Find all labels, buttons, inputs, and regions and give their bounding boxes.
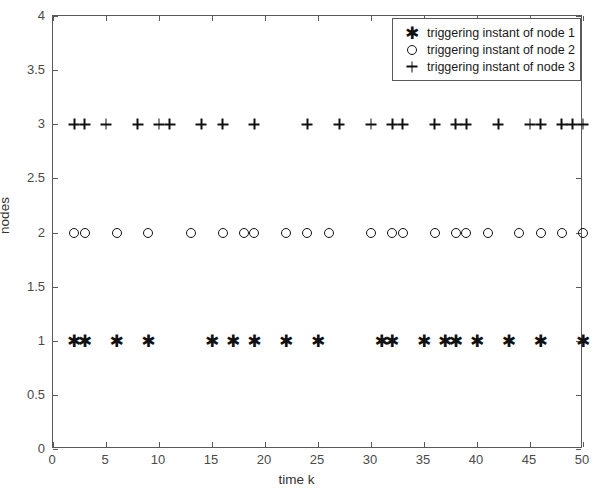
x-tick-4: [265, 16, 266, 21]
x-tick-label-8: 40: [469, 452, 483, 467]
data-point-s1-13: [398, 228, 408, 238]
data-point-s2-4: [154, 119, 165, 130]
y-tick-label-8: 4: [38, 8, 45, 23]
data-point-s1-16: [461, 228, 471, 238]
data-point-s1-17: [483, 228, 493, 238]
data-point-s2-5: [164, 119, 175, 130]
x-tick-0: [53, 16, 54, 21]
data-point-s2-20: [556, 119, 567, 130]
x-tick-5: [318, 16, 319, 21]
legend-label-3: triggering instant of node 3: [427, 60, 575, 74]
data-point-s0-8: ✱: [314, 336, 323, 345]
x-tick-label-10: 50: [575, 452, 589, 467]
data-point-s2-13: [397, 119, 408, 130]
y-tick-8: [53, 16, 58, 17]
data-point-s2-6: [196, 119, 207, 130]
legend-item-2: triggering instant of node 2: [397, 41, 574, 58]
data-point-s2-11: [366, 119, 377, 130]
circle-marker-icon: [407, 45, 417, 55]
y-tick-5: [53, 178, 58, 179]
scatter-chart-figure: ✱✱✱✱✱✱✱✱✱✱✱✱✱✱✱✱✱✱ 05101520253035404550 …: [0, 0, 593, 494]
y-tick-0: [576, 449, 581, 450]
data-point-s2-1: [79, 119, 90, 130]
data-point-s0-2: ✱: [112, 336, 121, 345]
x-tick-0: [53, 442, 54, 447]
y-tick-7: [53, 70, 58, 71]
y-tick-label-4: 2: [38, 224, 45, 239]
data-point-s1-0: [69, 228, 79, 238]
data-point-s1-20: [557, 228, 567, 238]
data-point-s2-10: [334, 119, 345, 130]
data-point-s2-8: [249, 119, 260, 130]
asterisk-marker-icon: ✱: [408, 28, 417, 37]
legend-marker-1: ✱: [397, 25, 427, 40]
x-tick-label-7: 35: [416, 452, 430, 467]
x-tick-2: [159, 16, 160, 21]
y-tick-1: [576, 395, 581, 396]
y-tick-6: [53, 124, 58, 125]
data-point-s2-15: [450, 119, 461, 130]
y-tick-5: [576, 178, 581, 179]
x-tick-label-2: 10: [151, 452, 165, 467]
y-tick-label-7: 3.5: [27, 62, 45, 77]
data-point-s1-12: [387, 228, 397, 238]
plus-marker-icon: [407, 61, 418, 72]
data-point-s1-1: [80, 228, 90, 238]
data-point-s0-0: ✱: [70, 336, 79, 345]
x-tick-label-9: 45: [522, 452, 536, 467]
y-axis-title: nodes: [0, 197, 12, 234]
data-point-s1-15: [451, 228, 461, 238]
data-point-s1-10: [324, 228, 334, 238]
y-tick-8: [576, 16, 581, 17]
data-point-s1-9: [302, 228, 312, 238]
legend-item-1: ✱triggering instant of node 1: [397, 24, 574, 41]
x-axis-title: time k: [0, 472, 593, 487]
data-point-s0-11: ✱: [420, 336, 429, 345]
data-point-s1-18: [514, 228, 524, 238]
y-tick-1: [53, 395, 58, 396]
x-tick-label-1: 5: [101, 452, 108, 467]
data-point-s0-12: ✱: [441, 336, 450, 345]
data-point-s0-14: ✱: [473, 336, 482, 345]
y-tick-label-2: 1: [38, 332, 45, 347]
x-tick-3: [212, 16, 213, 21]
x-tick-2: [159, 442, 160, 447]
data-point-s1-19: [536, 228, 546, 238]
x-tick-5: [318, 442, 319, 447]
data-point-s2-16: [461, 119, 472, 130]
x-tick-label-6: 30: [363, 452, 377, 467]
data-point-s2-22: [578, 119, 589, 130]
data-point-s1-8: [281, 228, 291, 238]
data-point-s0-9: ✱: [377, 336, 386, 345]
data-point-s0-13: ✱: [451, 336, 460, 345]
data-point-s1-5: [218, 228, 228, 238]
y-tick-4: [53, 233, 58, 234]
y-tick-4: [576, 233, 581, 234]
data-point-s1-4: [186, 228, 196, 238]
data-point-s2-12: [387, 119, 398, 130]
data-point-s1-21: [578, 228, 588, 238]
legend-marker-3: [397, 59, 427, 74]
y-tick-label-1: 0.5: [27, 386, 45, 401]
legend-marker-2: [397, 42, 427, 57]
y-tick-0: [53, 449, 58, 450]
x-tick-6: [371, 16, 372, 21]
x-tick-label-4: 20: [257, 452, 271, 467]
data-point-s0-1: ✱: [80, 336, 89, 345]
y-tick-3: [53, 287, 58, 288]
legend-label-1: triggering instant of node 1: [427, 26, 575, 40]
data-point-s0-10: ✱: [388, 336, 397, 345]
data-point-s1-3: [143, 228, 153, 238]
x-tick-1: [106, 442, 107, 447]
data-point-s2-19: [535, 119, 546, 130]
data-point-s1-6: [239, 228, 249, 238]
data-point-s2-0: [69, 119, 80, 130]
data-point-s0-3: ✱: [144, 336, 153, 345]
x-tick-label-0: 0: [48, 452, 55, 467]
data-point-s2-18: [525, 119, 536, 130]
x-tick-3: [212, 442, 213, 447]
y-tick-label-0: 0: [38, 441, 45, 456]
y-tick-label-6: 3: [38, 116, 45, 131]
x-tick-label-5: 25: [310, 452, 324, 467]
data-point-s2-3: [132, 119, 143, 130]
